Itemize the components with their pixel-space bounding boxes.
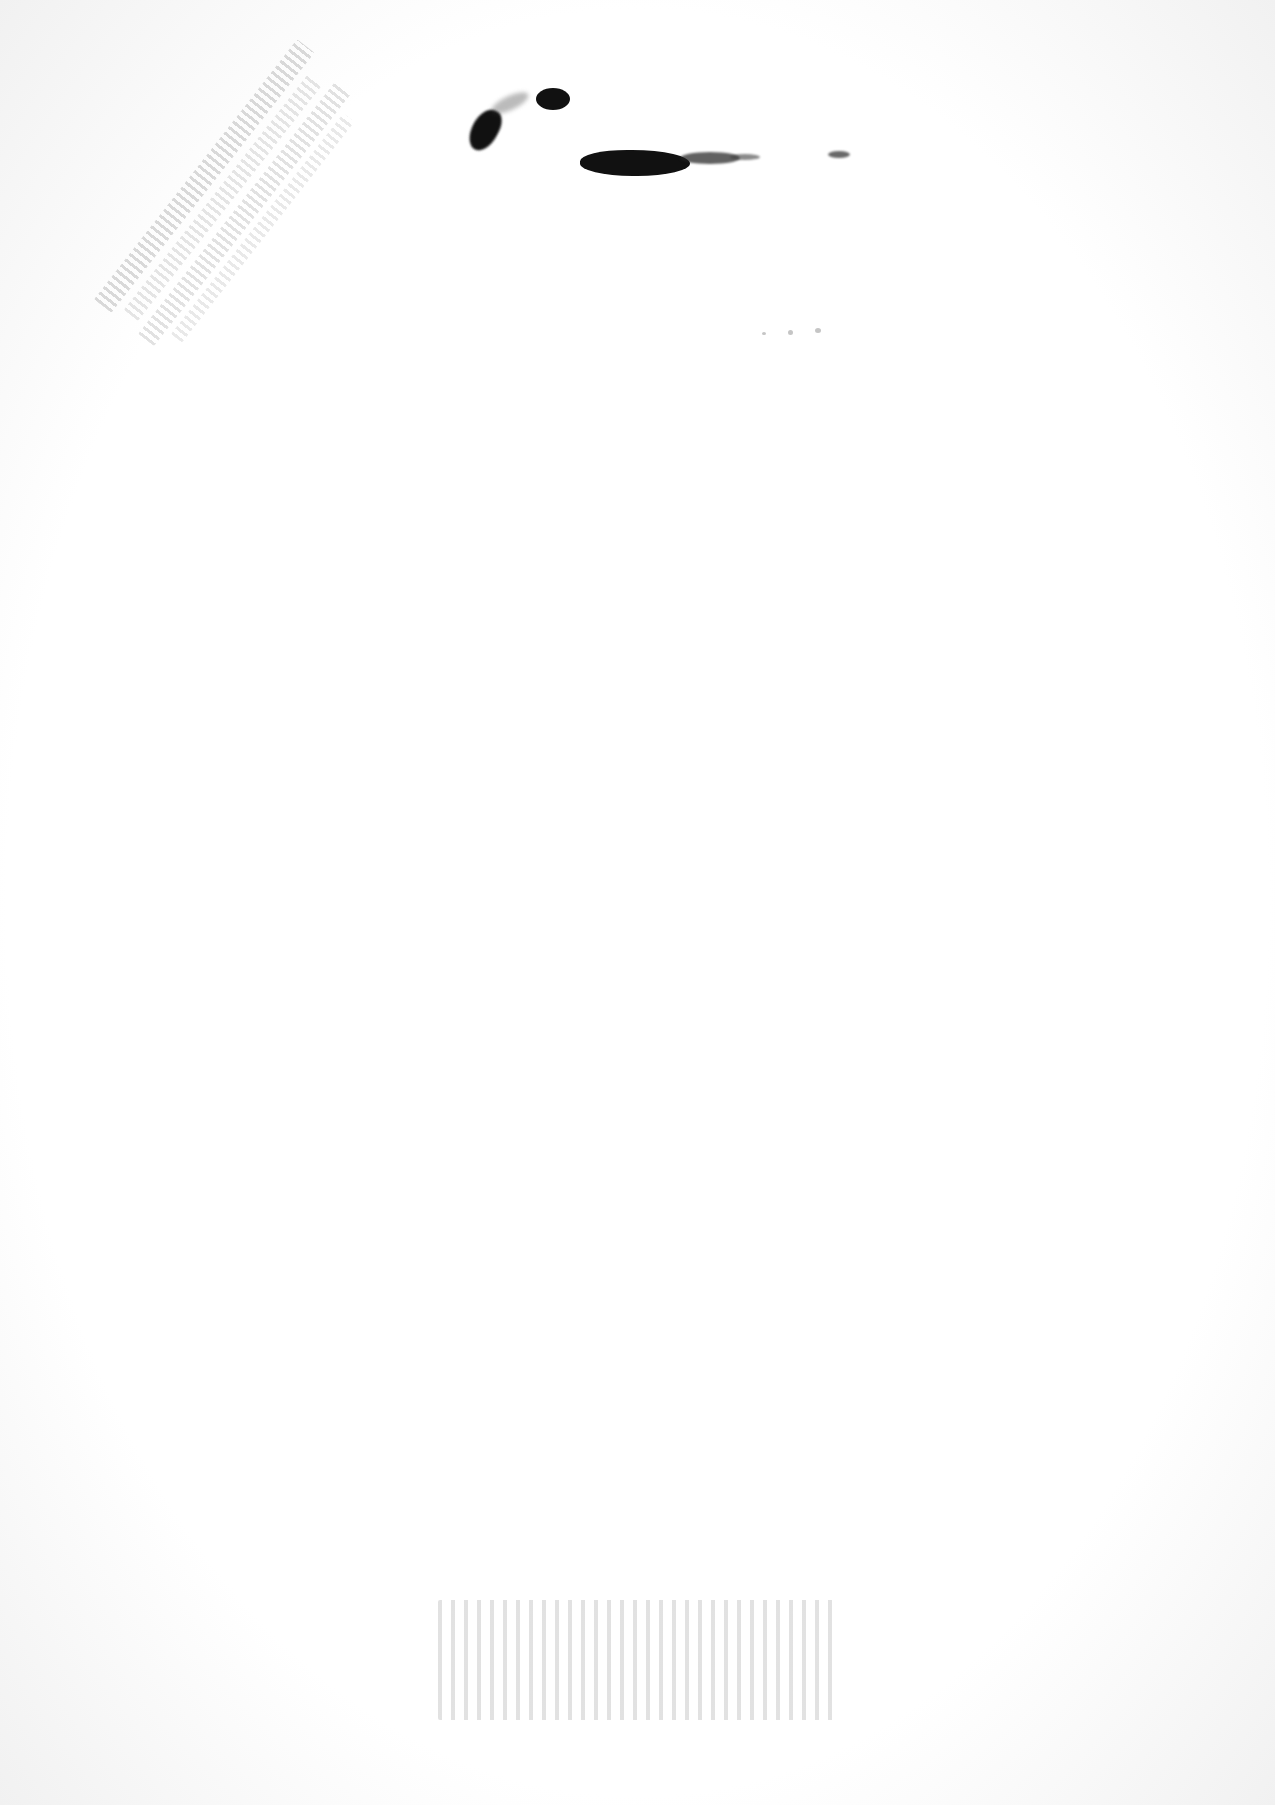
ink-smudge-trail: [489, 88, 531, 118]
ink-smudge-trail: [730, 154, 760, 160]
ink-smudge: [580, 150, 690, 176]
scanned-page: [0, 0, 1275, 1805]
ink-smudge: [828, 151, 850, 158]
faded-stamp-bottom: [438, 1600, 838, 1730]
ink-smudge: [536, 88, 570, 110]
speck: [762, 332, 766, 335]
speck: [788, 330, 793, 335]
faded-stamp-top-left: [40, 0, 400, 380]
speck: [815, 328, 821, 333]
